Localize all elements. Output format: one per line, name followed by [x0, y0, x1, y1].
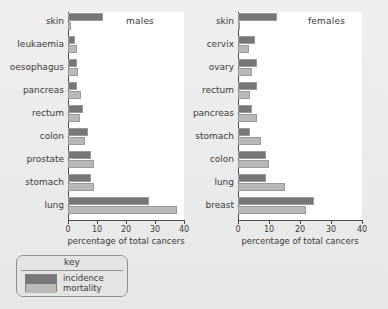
legend-swatch-incidence: [26, 275, 56, 284]
bar-mortality: [68, 68, 78, 76]
bar-mortality: [238, 183, 285, 191]
category-label: skin: [216, 16, 234, 26]
category-label: oesophagus: [10, 62, 64, 72]
bar-mortality: [238, 22, 240, 30]
bar-mortality: [68, 45, 77, 53]
category-label: pancreas: [193, 108, 234, 118]
bar-incidence: [68, 13, 103, 21]
bar-row: rectum: [238, 81, 362, 104]
legend-labels: incidence mortality: [63, 273, 104, 293]
bar-incidence: [68, 197, 149, 205]
bar-mortality: [68, 22, 71, 30]
x-axis-label-females: percentage of total cancers: [241, 236, 358, 246]
category-label: skin: [46, 16, 64, 26]
x-axis-tick: [269, 220, 270, 224]
x-axis-tick: [300, 220, 301, 224]
bar-row: lung: [68, 196, 184, 219]
bar-row: skin: [238, 12, 362, 35]
legend-title: key: [17, 257, 127, 267]
category-label: breast: [206, 200, 235, 210]
legend-label-mortality: mortality: [63, 283, 104, 293]
category-label: stomach: [25, 177, 64, 187]
legend-divider: [21, 270, 123, 271]
x-axis-tick: [238, 220, 239, 224]
bar-mortality: [68, 137, 85, 145]
bar-incidence: [238, 128, 250, 136]
legend-swatch-mortality: [26, 284, 56, 293]
bar-incidence: [68, 82, 77, 90]
bar-incidence: [238, 36, 255, 44]
x-axis-label-males: percentage of total cancers: [67, 236, 184, 246]
bar-incidence: [68, 128, 88, 136]
x-axis-tick-label: 0: [65, 225, 70, 234]
x-axis-tick-label: 0: [235, 225, 240, 234]
x-axis-tick-label: 10: [92, 225, 102, 234]
bar-incidence: [68, 174, 91, 182]
bar-row: lung: [238, 173, 362, 196]
bar-row: stomach: [68, 173, 184, 196]
bar-incidence: [238, 59, 257, 67]
bar-incidence: [238, 197, 314, 205]
bar-incidence: [238, 151, 266, 159]
bar-mortality: [238, 68, 252, 76]
bar-mortality: [68, 91, 81, 99]
bar-row: oesophagus: [68, 58, 184, 81]
x-axis-tick-label: 20: [295, 225, 305, 234]
category-label: cervix: [207, 39, 234, 49]
x-axis-tick: [362, 220, 363, 224]
bar-mortality: [238, 114, 257, 122]
bar-mortality: [238, 91, 250, 99]
bar-row: cervix: [238, 35, 362, 58]
x-axis-tick: [184, 220, 185, 224]
x-axis-tick-label: 40: [179, 225, 189, 234]
category-label: colon: [210, 154, 234, 164]
bar-row: colon: [238, 150, 362, 173]
category-label: pancreas: [23, 85, 64, 95]
bar-incidence: [238, 105, 252, 113]
x-axis-tick-label: 40: [357, 225, 367, 234]
bar-mortality: [68, 206, 177, 214]
chart-panel-males: males skinleukaemiaoesophaguspancreasrec…: [2, 8, 190, 240]
bar-incidence: [68, 151, 91, 159]
bar-incidence: [238, 13, 277, 21]
bar-row: colon: [68, 127, 184, 150]
x-axis-tick-label: 10: [264, 225, 274, 234]
bar-mortality: [68, 183, 94, 191]
legend-box: key incidence mortality: [16, 255, 128, 297]
bar-row: prostate: [68, 150, 184, 173]
x-axis-tick: [126, 220, 127, 224]
bar-mortality: [238, 45, 249, 53]
x-axis-tick-label: 30: [326, 225, 336, 234]
bar-incidence: [68, 59, 77, 67]
legend-swatches: [25, 274, 57, 292]
charts-row: males skinleukaemiaoesophaguspancreasrec…: [0, 0, 388, 240]
category-label: ovary: [209, 62, 234, 72]
bar-mortality: [238, 160, 269, 168]
category-label: lung: [44, 200, 64, 210]
category-label: rectum: [202, 85, 234, 95]
bar-mortality: [238, 137, 261, 145]
chart-panel-females: females skincervixovaryrectumpancreassto…: [196, 8, 384, 240]
bar-incidence: [68, 105, 83, 113]
category-label: leukaemia: [17, 39, 64, 49]
bar-row: leukaemia: [68, 35, 184, 58]
bar-mortality: [68, 114, 80, 122]
bar-incidence: [68, 36, 75, 44]
category-label: stomach: [195, 131, 234, 141]
bar-row: breast: [238, 196, 362, 219]
figure-canvas: males skinleukaemiaoesophaguspancreasrec…: [0, 0, 388, 309]
bar-incidence: [238, 174, 266, 182]
bar-mortality: [68, 160, 94, 168]
x-axis-tick-label: 30: [150, 225, 160, 234]
bar-mortality: [238, 206, 306, 214]
legend-label-incidence: incidence: [63, 273, 104, 283]
category-label: lung: [214, 177, 234, 187]
category-label: rectum: [32, 108, 64, 118]
bar-row: pancreas: [238, 104, 362, 127]
category-label: prostate: [26, 154, 64, 164]
bar-row: pancreas: [68, 81, 184, 104]
bar-row: rectum: [68, 104, 184, 127]
bar-row: ovary: [238, 58, 362, 81]
bar-row: stomach: [238, 127, 362, 150]
x-axis-tick-label: 20: [121, 225, 131, 234]
